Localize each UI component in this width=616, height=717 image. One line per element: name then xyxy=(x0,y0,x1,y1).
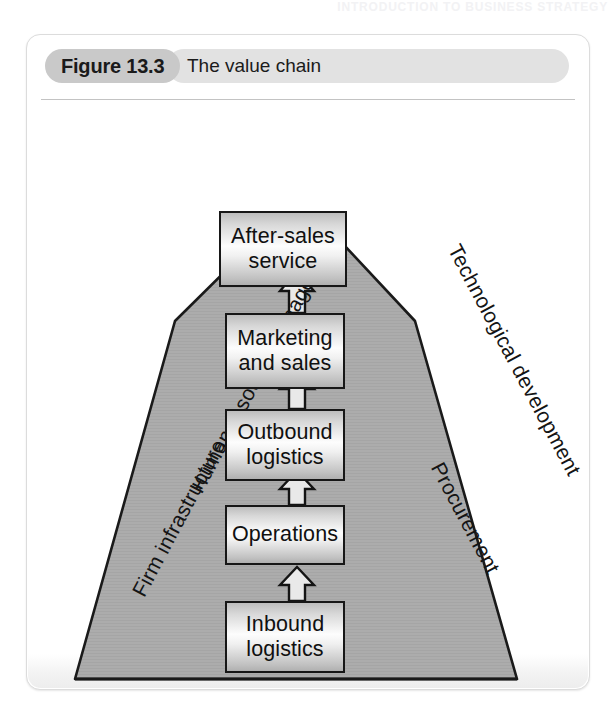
activity-box-after-sales-service: After-sales service xyxy=(219,211,347,287)
figure-card: Figure 13.3 The value chain xyxy=(26,34,590,690)
activity-box-inbound-logistics: Inbound logistics xyxy=(225,601,345,673)
value-chain-diagram: Human resource management Firm infrastru… xyxy=(27,101,589,689)
figure-header: Figure 13.3 The value chain xyxy=(27,35,589,99)
page-root: INTRODUCTION TO BUSINESS STRATEGY Figure… xyxy=(0,0,616,717)
running-head: INTRODUCTION TO BUSINESS STRATEGY xyxy=(337,0,608,14)
figure-number-badge: Figure 13.3 xyxy=(45,49,180,83)
figure-title: The value chain xyxy=(187,49,321,83)
activity-box-operations: Operations xyxy=(225,505,345,565)
activity-box-outbound-logistics: Outbound logistics xyxy=(225,409,345,481)
activity-box-marketing-and-sales: Marketing and sales xyxy=(225,313,345,389)
header-divider xyxy=(41,99,575,100)
